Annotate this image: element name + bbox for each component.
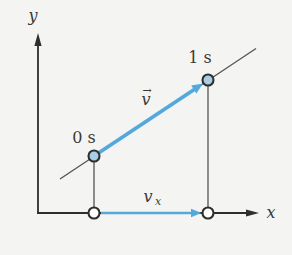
velocity-vector-diagram: y x 0 s 1 s v → v x [0, 0, 292, 255]
y-axis-arrowhead-icon [34, 33, 41, 46]
x-axis-arrowhead-icon [246, 209, 259, 216]
point-marker-1s [203, 75, 214, 86]
time-label-0s: 0 s [72, 128, 95, 147]
vx-component-arrowhead-icon [191, 209, 202, 217]
vx-component-label: v [143, 187, 152, 206]
diagram-canvas: y x 0 s 1 s v → v x [0, 0, 292, 255]
time-label-1s: 1 s [188, 48, 211, 67]
vx-component-subscript: x [155, 195, 162, 208]
y-axis-label: y [27, 6, 38, 25]
x-axis-label: x [266, 203, 275, 222]
projection-marker-1s [203, 208, 214, 219]
vector-accent-arrow-icon: → [142, 84, 151, 97]
projection-marker-0s [89, 208, 100, 219]
point-marker-0s [89, 151, 100, 162]
